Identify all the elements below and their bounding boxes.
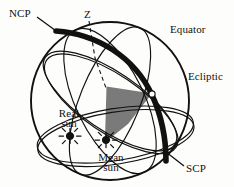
label-real-sun: Real sun [48,108,90,128]
label-mean-sun-line2: sun [88,162,134,172]
label-real-sun-line2: sun [48,118,90,128]
intersection-node-icon [149,91,155,97]
label-scp: SCP [186,163,206,174]
real-sun-icon [59,128,81,143]
ncp-leader-line [37,17,58,32]
celestial-sphere-figure: NCP Z Equator Ecliptic SCP Real sun Mean… [0,0,234,187]
label-equator: Equator [170,24,206,35]
zenith-dashed-line [89,21,106,88]
label-zenith: Z [84,9,91,20]
label-mean-sun: Mean sun [88,152,134,172]
label-ncp: NCP [9,8,31,19]
label-ecliptic: Ecliptic [188,71,223,82]
